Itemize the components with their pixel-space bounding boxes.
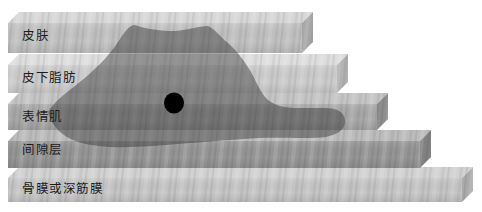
- tissue-layers-canvas: 骨膜或深筋膜 间隙层 表情肌 皮下脂肪: [0, 0, 482, 212]
- layer-label-subcutaneous-fat: 皮下脂肪: [22, 70, 76, 85]
- target-point-marker: [164, 93, 184, 114]
- texture-overlay: [8, 12, 313, 23]
- layer-label-periosteum-deep-fascia: 骨膜或深筋膜: [22, 181, 103, 196]
- texture-overlay: [8, 167, 473, 178]
- layer-label-gap-layer: 间隙层: [22, 143, 63, 157]
- shade-overlay: [8, 141, 420, 168]
- layer-label-skin: 皮肤: [22, 28, 49, 43]
- tissue-layers-diagram: 骨膜或深筋膜 间隙层 表情肌 皮下脂肪: [0, 0, 482, 212]
- layer-periosteum-deep-fascia: 骨膜或深筋膜: [8, 167, 473, 202]
